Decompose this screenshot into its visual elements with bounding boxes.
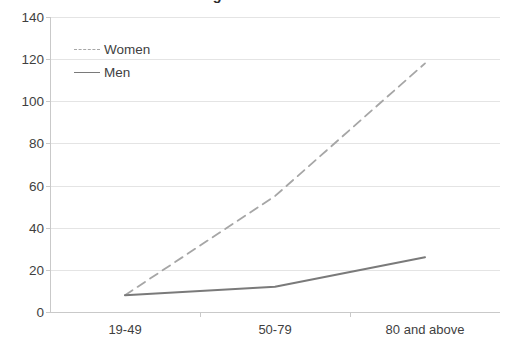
y-axis-tick-mark — [46, 17, 50, 18]
x-axis-tick-mark — [350, 312, 351, 317]
y-axis-tick-mark — [46, 101, 50, 102]
legend-label: Men — [104, 65, 130, 80]
series-line-men — [125, 257, 425, 295]
y-axis-tick-mark — [46, 59, 50, 60]
legend-label: Women — [104, 42, 150, 57]
legend-item-women[interactable]: Women — [74, 38, 204, 61]
y-axis-tick-mark — [46, 143, 50, 144]
chart-legend: WomenMen — [74, 38, 204, 84]
x-axis-tick-mark — [200, 312, 201, 317]
y-axis-tick-mark — [46, 270, 50, 271]
legend-swatch-women-icon — [74, 45, 100, 55]
y-axis-tick-mark — [46, 186, 50, 187]
legend-item-men[interactable]: Men — [74, 61, 204, 84]
y-axis-tick-mark — [46, 312, 50, 313]
y-axis-tick-mark — [46, 228, 50, 229]
legend-swatch-men-icon — [74, 68, 100, 78]
series-line-women — [125, 63, 425, 295]
line-chart: Among Men and Women 020406080100120140 1… — [0, 0, 510, 352]
